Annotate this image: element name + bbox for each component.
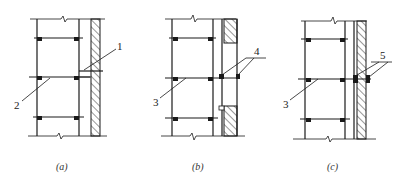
callout-5: 5	[380, 49, 386, 61]
caption-c: (c)	[327, 161, 339, 173]
scaffold-wall-tie-diagram: 1 2 (a)	[0, 0, 405, 181]
panel-b: 4 3 (b)	[153, 15, 266, 173]
leader-line-2	[22, 78, 50, 101]
wall	[91, 19, 100, 136]
leader-line-4a	[222, 58, 246, 75]
callout-2: 2	[14, 99, 20, 111]
callout-3: 3	[153, 96, 159, 108]
caption-b: (b)	[192, 161, 204, 173]
leader-line-4b	[238, 58, 254, 75]
ledgers	[29, 37, 90, 120]
callout-4: 4	[254, 45, 260, 57]
panel-a: 1 2 (a)	[14, 16, 123, 173]
caption-a: (a)	[56, 161, 68, 173]
callout-3: 3	[283, 98, 289, 110]
leader-line-3	[290, 79, 318, 100]
panel-c: 5 3 (c)	[283, 17, 392, 173]
callout-1: 1	[117, 40, 123, 52]
leader-line-5b	[369, 62, 388, 77]
